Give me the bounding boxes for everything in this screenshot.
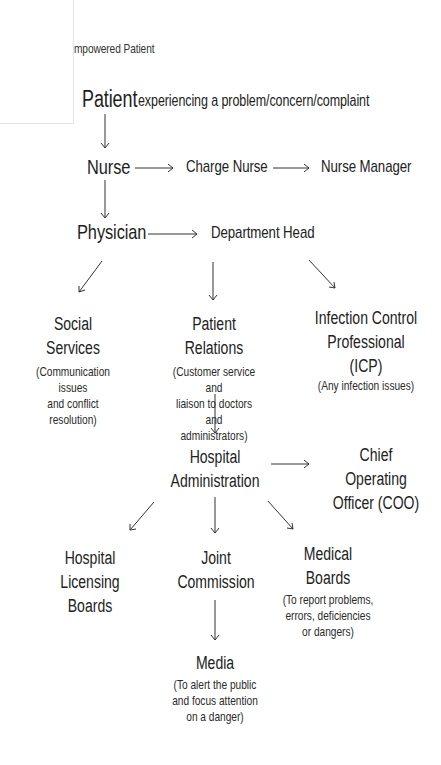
node-physician: Physician	[77, 220, 146, 244]
node-icp: Infection Control Professional (ICP) (An…	[315, 306, 418, 394]
arrow-down-icon	[101, 114, 109, 148]
arrow-down-right-icon	[268, 501, 293, 529]
social-services-note-1: (Communication issues	[26, 364, 120, 396]
arrow-down-icon	[211, 600, 219, 640]
node-patient-relations: Patient Relations (Customer service and …	[167, 312, 261, 444]
node-patient: Patient	[82, 86, 137, 113]
medical-boards-label-2: Boards	[281, 566, 375, 590]
arrow-down-icon	[211, 497, 219, 533]
icp-label-1: Infection Control	[315, 306, 418, 330]
node-nurse-manager: Nurse Manager	[321, 157, 411, 177]
arrow-down-right-icon	[309, 260, 335, 288]
coo-label-2: Officer (COO)	[329, 491, 423, 515]
icp-label-2: Professional (ICP)	[315, 330, 418, 378]
node-patient-description: experiencing a problem/concern/complaint	[138, 92, 369, 110]
node-media: Media (To alert the public and focus att…	[172, 651, 258, 725]
social-services-label: Social Services	[26, 312, 120, 360]
node-social-services: Social Services (Communication issues an…	[26, 312, 120, 428]
node-nurse: Nurse	[87, 155, 130, 179]
medical-boards-label-1: Medical	[281, 542, 375, 566]
arrow-down-left-icon	[79, 261, 102, 292]
media-note-1: (To alert the public	[172, 677, 258, 693]
icp-note-1: (Any infection issues)	[315, 378, 418, 394]
coo-label-1: Chief Operating	[329, 443, 423, 491]
arrow-right-icon	[273, 164, 309, 172]
medical-boards-note-1: (To report problems,	[281, 592, 375, 608]
node-medical-boards: Medical Boards (To report problems, erro…	[281, 542, 375, 640]
node-hospital-licensing-boards: Hospital Licensing Boards	[42, 546, 139, 618]
node-coo: Chief Operating Officer (COO)	[329, 443, 423, 515]
patient-relations-note-3: administrators)	[167, 428, 261, 444]
patient-relations-label: Patient Relations	[167, 312, 261, 360]
arrow-down-icon	[101, 180, 109, 218]
arrow-down-left-icon	[130, 502, 154, 530]
node-charge-nurse: Charge Nurse	[186, 157, 268, 177]
social-services-note-2: and conflict resolution)	[26, 396, 120, 428]
node-department-head: Department Head	[211, 223, 314, 243]
hospital-admin-label-1: Hospital	[168, 445, 262, 469]
joint-commission-label-1: Joint	[177, 546, 255, 570]
node-hospital-administration: Hospital Administration	[168, 445, 262, 493]
licensing-label-2: Boards	[42, 594, 139, 618]
arrow-right-icon	[135, 164, 173, 172]
arrow-right-icon	[148, 230, 197, 238]
hospital-admin-label-2: Administration	[168, 469, 262, 493]
medical-boards-note-3: or dangers)	[281, 624, 375, 640]
arrow-down-icon	[209, 262, 217, 300]
media-label: Media	[172, 651, 258, 675]
patient-relations-note-2: liaison to doctors and	[167, 396, 261, 428]
medical-boards-note-2: errors, deficiencies	[281, 608, 375, 624]
media-note-2: and focus attention	[172, 693, 258, 709]
patient-relations-note-1: (Customer service and	[167, 364, 261, 396]
media-note-3: on a danger)	[172, 709, 258, 725]
arrow-right-icon	[271, 460, 309, 468]
licensing-label-1: Hospital Licensing	[42, 546, 139, 594]
node-joint-commission: Joint Commission	[177, 546, 255, 594]
joint-commission-label-2: Commission	[177, 570, 255, 594]
